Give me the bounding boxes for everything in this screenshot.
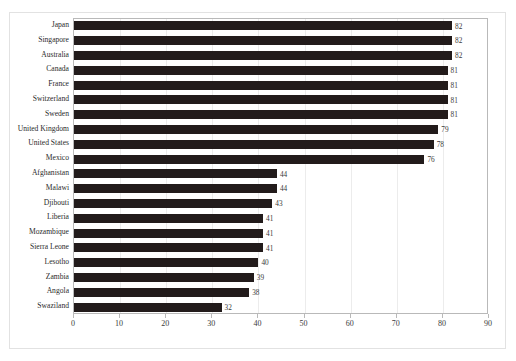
bar bbox=[74, 125, 438, 134]
bar-value-label: 44 bbox=[280, 168, 287, 181]
bar-row: 41 bbox=[74, 211, 487, 226]
bar-value-label: 82 bbox=[455, 20, 462, 33]
bar-value-label: 81 bbox=[451, 94, 458, 107]
bar-value-label: 41 bbox=[266, 227, 273, 240]
bar-row: 82 bbox=[74, 34, 487, 49]
category-label: Zambia bbox=[10, 270, 69, 285]
bar bbox=[74, 140, 434, 149]
bar bbox=[74, 243, 263, 252]
bar-value-label: 81 bbox=[451, 108, 458, 121]
x-tick-label-40: 40 bbox=[253, 319, 261, 328]
x-tick-mark-80 bbox=[442, 314, 443, 318]
bar bbox=[74, 288, 249, 297]
x-tick-label-90: 90 bbox=[484, 319, 492, 328]
bar-row: 44 bbox=[74, 182, 487, 197]
bar-value-label: 41 bbox=[266, 212, 273, 225]
x-tick-mark-0 bbox=[73, 314, 74, 318]
bar-row: 78 bbox=[74, 137, 487, 152]
bar bbox=[74, 258, 258, 267]
bar bbox=[74, 95, 448, 104]
category-label: Lesotho bbox=[10, 255, 69, 270]
bar-row: 32 bbox=[74, 300, 487, 315]
bar-row: 44 bbox=[74, 167, 487, 182]
bar-value-label: 82 bbox=[455, 49, 462, 62]
x-tick-label-80: 80 bbox=[438, 319, 446, 328]
bar-value-label: 76 bbox=[427, 153, 434, 166]
x-tick-label-0: 0 bbox=[71, 319, 75, 328]
bar-value-label: 44 bbox=[280, 182, 287, 195]
bar-row: 81 bbox=[74, 78, 487, 93]
bar-row: 81 bbox=[74, 93, 487, 108]
category-label: Malawi bbox=[10, 181, 69, 196]
bar bbox=[74, 214, 263, 223]
bar-row: 43 bbox=[74, 197, 487, 212]
x-tick-label-50: 50 bbox=[300, 319, 308, 328]
bar bbox=[74, 273, 254, 282]
chart-figure: JapanSingaporeAustraliaCanadaFranceSwitz… bbox=[9, 12, 506, 349]
bar bbox=[74, 66, 448, 75]
x-tick-label-30: 30 bbox=[207, 319, 215, 328]
category-label: Angola bbox=[10, 284, 69, 299]
bar-value-label: 81 bbox=[451, 64, 458, 77]
bar-value-label: 38 bbox=[252, 286, 259, 299]
category-label: Australia bbox=[10, 48, 69, 63]
category-label: Sweden bbox=[10, 107, 69, 122]
category-label: Djibouti bbox=[10, 196, 69, 211]
category-label: Japan bbox=[10, 18, 69, 33]
x-tick-mark-20 bbox=[165, 314, 166, 318]
bar-value-label: 79 bbox=[441, 123, 448, 136]
bar bbox=[74, 81, 448, 90]
bar-row: 82 bbox=[74, 49, 487, 64]
x-tick-mark-10 bbox=[119, 314, 120, 318]
category-label: United Kingdom bbox=[10, 122, 69, 137]
bar bbox=[74, 303, 222, 312]
category-label: Sierra Leone bbox=[10, 240, 69, 255]
x-tick-mark-70 bbox=[396, 314, 397, 318]
category-label: Singapore bbox=[10, 33, 69, 48]
bar-value-label: 32 bbox=[225, 301, 232, 314]
category-label: Canada bbox=[10, 62, 69, 77]
bar bbox=[74, 184, 277, 193]
x-tick-label-60: 60 bbox=[346, 319, 354, 328]
category-label: Mexico bbox=[10, 151, 69, 166]
bar bbox=[74, 36, 452, 45]
category-label: Mozambique bbox=[10, 225, 69, 240]
category-label: France bbox=[10, 77, 69, 92]
bar-value-label: 41 bbox=[266, 242, 273, 255]
bar-value-label: 40 bbox=[261, 256, 268, 269]
bar-row: 41 bbox=[74, 241, 487, 256]
bar-value-label: 43 bbox=[275, 197, 282, 210]
x-tick-label-70: 70 bbox=[392, 319, 400, 328]
bar-row: 81 bbox=[74, 108, 487, 123]
bar-row: 76 bbox=[74, 152, 487, 167]
bar-row: 38 bbox=[74, 285, 487, 300]
category-label: Swaziland bbox=[10, 299, 69, 314]
x-tick-mark-30 bbox=[211, 314, 212, 318]
x-tick-label-10: 10 bbox=[115, 319, 123, 328]
bar bbox=[74, 229, 263, 238]
bar bbox=[74, 21, 452, 30]
bar-row: 41 bbox=[74, 226, 487, 241]
bar bbox=[74, 199, 272, 208]
bar-row: 79 bbox=[74, 123, 487, 138]
x-tick-mark-40 bbox=[257, 314, 258, 318]
x-axis: 0102030405060708090 bbox=[73, 314, 488, 340]
x-tick-mark-60 bbox=[350, 314, 351, 318]
x-tick-label-20: 20 bbox=[161, 319, 169, 328]
bar bbox=[74, 155, 424, 164]
bar bbox=[74, 51, 452, 60]
bar-row: 81 bbox=[74, 63, 487, 78]
category-label: Switzerland bbox=[10, 92, 69, 107]
category-label: United States bbox=[10, 136, 69, 151]
category-label: Afghanistan bbox=[10, 166, 69, 181]
bar-row: 82 bbox=[74, 19, 487, 34]
bar-value-label: 39 bbox=[257, 271, 264, 284]
x-tick-mark-90 bbox=[488, 314, 489, 318]
bar-value-label: 78 bbox=[437, 138, 444, 151]
x-tick-mark-50 bbox=[304, 314, 305, 318]
y-axis-category-labels: JapanSingaporeAustraliaCanadaFranceSwitz… bbox=[10, 18, 69, 314]
bar-series: 8282828181818179787644444341414140393832 bbox=[74, 19, 487, 313]
bar-value-label: 82 bbox=[455, 34, 462, 47]
bar-value-label: 81 bbox=[451, 79, 458, 92]
bar-row: 40 bbox=[74, 256, 487, 271]
